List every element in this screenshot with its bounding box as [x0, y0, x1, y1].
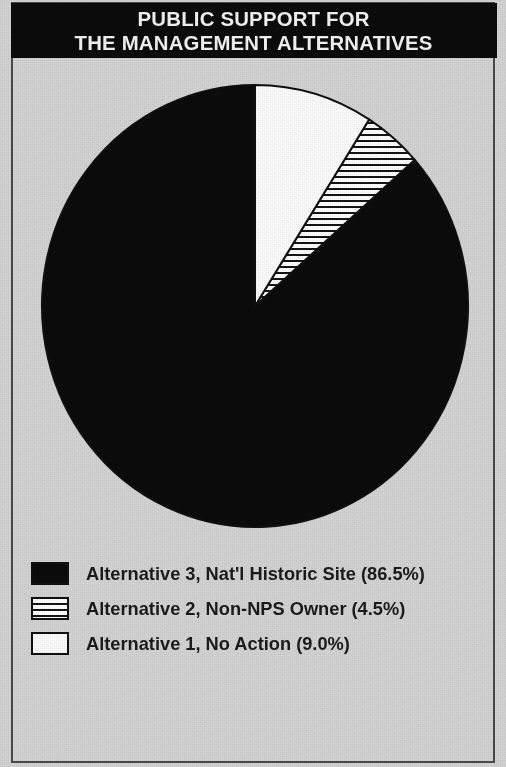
chart-title-line-1: PUBLIC SUPPORT FOR [138, 7, 370, 31]
legend-swatch-alternative-2 [31, 597, 69, 620]
legend-item: Alternative 1, No Action (9.0%) [31, 626, 481, 661]
legend-item-label: Alternative 3, Nat'l Historic Site (86.5… [86, 564, 425, 584]
chart-title-line-2: THE MANAGEMENT ALTERNATIVES [75, 31, 433, 55]
legend-item-label: Alternative 1, No Action (9.0%) [86, 634, 350, 654]
pie-slice-group [42, 85, 468, 527]
chart-title-banner: PUBLIC SUPPORT FOR THE MANAGEMENT ALTERN… [11, 3, 497, 58]
pie-chart-svg [0, 58, 506, 538]
legend-item: Alternative 2, Non-NPS Owner (4.5%) [31, 591, 481, 626]
pie-chart [0, 58, 506, 538]
legend-item: Alternative 3, Nat'l Historic Site (86.5… [31, 556, 481, 591]
legend-swatch-alternative-1 [31, 632, 69, 655]
chart-legend: Alternative 3, Nat'l Historic Site (86.5… [31, 556, 481, 661]
legend-swatch-alternative-3 [31, 562, 69, 585]
chart-figure: PUBLIC SUPPORT FOR THE MANAGEMENT ALTERN… [0, 0, 506, 767]
legend-item-label: Alternative 2, Non-NPS Owner (4.5%) [86, 599, 405, 619]
